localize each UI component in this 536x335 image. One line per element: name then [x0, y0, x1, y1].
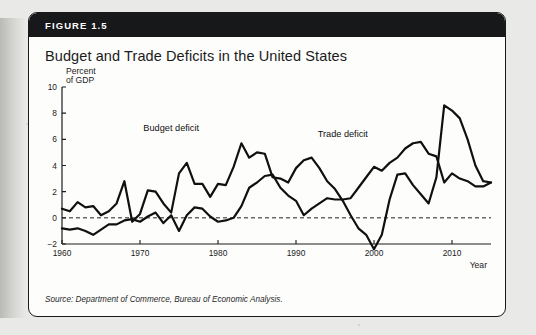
series-line-budget-deficit — [62, 105, 491, 249]
figure-title: Budget and Trade Deficits in the United … — [45, 48, 505, 64]
y-tick-label: 2 — [52, 187, 57, 197]
y-tick-label: 6 — [52, 134, 57, 144]
figure-number-label: FIGURE 1.5 — [45, 20, 108, 31]
y-tick-label: 10 — [48, 82, 58, 92]
annotation-trade-deficit: Trade deficit — [318, 129, 369, 139]
chart-plot-area: −20246810196019701980199020002010Percent… — [29, 64, 506, 296]
y-tick-label: 4 — [52, 161, 57, 171]
y-axis-title-line2: of GDP — [66, 75, 94, 85]
x-tick-label: 1960 — [53, 248, 72, 258]
page-edge-shadow — [0, 18, 26, 318]
x-axis-title: Year — [470, 260, 488, 270]
x-tick-label: 1990 — [287, 248, 306, 258]
y-tick-label: 8 — [52, 108, 57, 118]
x-tick-label: 1970 — [131, 248, 150, 258]
figure-header-bar: FIGURE 1.5 — [29, 13, 505, 37]
figure-source-note: Source: Department of Commerce, Bureau o… — [45, 295, 283, 304]
y-tick-label: 0 — [52, 213, 57, 223]
figure-container: FIGURE 1.5 Budget and Trade Deficits in … — [28, 12, 506, 317]
x-tick-label: 2010 — [443, 248, 462, 258]
annotation-budget-deficit: Budget deficit — [143, 123, 199, 133]
chart-svg: −20246810196019701980199020002010Percent… — [29, 64, 506, 296]
x-tick-label: 1980 — [209, 248, 228, 258]
